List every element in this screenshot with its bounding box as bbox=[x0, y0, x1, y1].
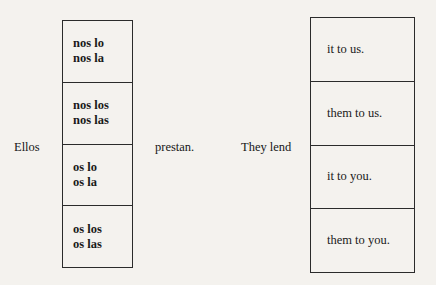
spanish-pronoun-line: os la bbox=[73, 175, 132, 190]
spanish-verb-label: prestan. bbox=[155, 141, 194, 154]
spanish-pronoun-line: nos los bbox=[73, 98, 132, 113]
english-object-line: them to us. bbox=[327, 106, 414, 121]
english-verb-label: They lend bbox=[241, 141, 291, 154]
spanish-pronoun-option-row: nos los nos las bbox=[63, 83, 132, 145]
english-object-option-row: it to us. bbox=[311, 18, 414, 82]
spanish-pronoun-line: os los bbox=[73, 222, 132, 237]
english-object-option-row: them to us. bbox=[311, 82, 414, 146]
grammar-substitution-diagram: Ellos nos lo nos la nos los nos las os l… bbox=[0, 0, 436, 285]
english-object-options-box: it to us. them to us. it to you. them to… bbox=[310, 17, 415, 273]
english-object-line: them to you. bbox=[327, 233, 414, 248]
spanish-pronoun-option-row: nos lo nos la bbox=[63, 21, 132, 83]
spanish-pronoun-line: nos las bbox=[73, 113, 132, 128]
english-object-option-row: them to you. bbox=[311, 209, 414, 272]
spanish-pronoun-option-row: os los os las bbox=[63, 206, 132, 267]
english-object-option-row: it to you. bbox=[311, 146, 414, 210]
spanish-pronoun-line: os lo bbox=[73, 160, 132, 175]
spanish-pronoun-line: nos la bbox=[73, 51, 132, 66]
spanish-pronoun-line: nos lo bbox=[73, 36, 132, 51]
spanish-pronoun-option-row: os lo os la bbox=[63, 145, 132, 207]
english-object-line: it to you. bbox=[327, 169, 414, 184]
spanish-pronoun-line: os las bbox=[73, 237, 132, 252]
english-object-line: it to us. bbox=[327, 42, 414, 57]
spanish-subject-label: Ellos bbox=[14, 141, 40, 154]
spanish-pronoun-options-box: nos lo nos la nos los nos las os lo os l… bbox=[62, 20, 133, 268]
